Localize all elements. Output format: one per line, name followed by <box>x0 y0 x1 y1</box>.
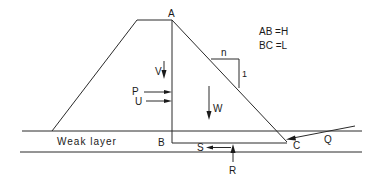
point-label-B: B <box>158 137 165 148</box>
force-V-arrow <box>162 61 167 79</box>
force-label-W: W <box>213 103 223 114</box>
arrowhead-icon <box>231 144 236 153</box>
arrowhead-icon <box>286 136 296 141</box>
legend-AB: AB =H <box>259 26 288 37</box>
arrowhead-icon <box>207 111 212 120</box>
point-label-A: A <box>168 8 175 19</box>
slope-label-n: n <box>221 47 227 58</box>
legend-BC: BC =L <box>259 40 288 51</box>
arrowhead-icon <box>164 90 172 94</box>
dam-upstream-slope <box>52 20 172 131</box>
arrowhead-icon <box>162 70 167 79</box>
slope-label-1: 1 <box>242 69 247 79</box>
arrowhead-icon <box>206 146 213 150</box>
force-U-arrow <box>146 99 172 103</box>
force-label-R: R <box>229 165 236 176</box>
force-label-V: V <box>155 66 162 77</box>
weak-layer-label: Weak layer <box>57 136 117 147</box>
force-Q-arrow <box>286 126 355 141</box>
dam-downstream-slope <box>172 20 287 142</box>
dam-diagram: A B C n 1 AB =H BC =L V P U <box>0 0 382 182</box>
force-label-U: U <box>135 96 142 107</box>
force-W-arrow <box>207 86 212 120</box>
arrowhead-icon <box>164 99 172 103</box>
force-S-arrow <box>206 146 231 150</box>
force-label-S: S <box>197 142 204 153</box>
force-label-Q: Q <box>324 134 332 145</box>
point-label-C: C <box>293 140 300 151</box>
force-R-arrow <box>231 144 236 162</box>
force-P-arrow <box>144 90 172 94</box>
